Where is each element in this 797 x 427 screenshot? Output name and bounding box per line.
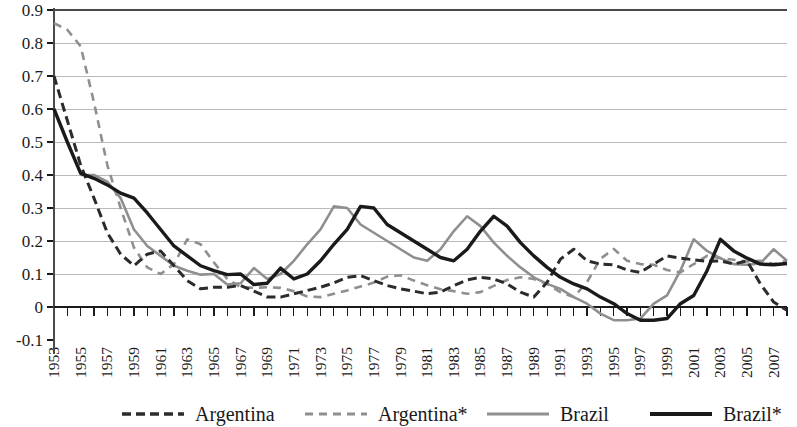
x-tick-label: 1975: [338, 347, 355, 378]
y-tick-label: 0.3: [22, 199, 43, 218]
x-tick-label: 1995: [605, 347, 622, 378]
x-tick-label: 1955: [72, 347, 89, 378]
x-tick-label: 1985: [471, 347, 488, 378]
x-tick-label: 2001: [685, 347, 702, 378]
x-tick-label: 1991: [551, 347, 568, 378]
y-tick-label: 0.8: [22, 34, 43, 53]
x-tick-label: 1999: [658, 347, 675, 378]
x-tick-label: 2005: [738, 347, 755, 378]
y-tick-label: 0.1: [22, 265, 43, 284]
legend-label-solid-gray: Brazil: [560, 403, 609, 425]
y-tick-label: 0.7: [22, 67, 44, 86]
chart-canvas: 0.90.80.70.60.50.40.30.20.10-0.1 1953195…: [0, 0, 797, 427]
x-tick-label: 1983: [445, 347, 462, 378]
y-tick-label: 0.4: [22, 166, 44, 185]
legend-label-dashed-gray: Argentina*: [378, 403, 468, 426]
x-tick-label: 2003: [711, 347, 728, 378]
x-tick-label: 1963: [178, 347, 195, 378]
x-tick-label: 1965: [205, 347, 222, 378]
legend-label-solid-black: Brazil*: [723, 403, 782, 425]
y-tick-label: 0.6: [22, 100, 43, 119]
x-tick-label: 1987: [498, 347, 515, 378]
x-tick-label: 1967: [232, 347, 249, 378]
x-tick-label: 1979: [392, 347, 409, 378]
x-tick-label: 1997: [631, 347, 648, 378]
y-tick-label: -0.1: [16, 331, 43, 350]
x-tick-label: 1957: [98, 347, 115, 378]
x-tick-label: 1993: [578, 347, 595, 378]
legend-label-dashed-black: Argentina: [195, 403, 275, 426]
y-tick-label: 0.9: [22, 1, 43, 20]
y-tick-label: 0.5: [22, 133, 43, 152]
x-tick-label: 1969: [258, 347, 275, 378]
x-tick-label: 1973: [312, 347, 329, 378]
x-tick-label: 1977: [365, 347, 382, 378]
x-tick-label: 1971: [285, 347, 302, 378]
x-tick-label: 1961: [152, 347, 169, 378]
y-tick-label: 0: [35, 298, 44, 317]
x-tick-label: 1989: [525, 347, 542, 378]
y-tick-label: 0.2: [22, 232, 43, 251]
x-tick-label: 2007: [765, 347, 782, 378]
x-tick-label: 1959: [125, 347, 142, 378]
x-tick-label: 1981: [418, 347, 435, 378]
line-chart-figure: 0.90.80.70.60.50.40.30.20.10-0.1 1953195…: [0, 0, 797, 427]
